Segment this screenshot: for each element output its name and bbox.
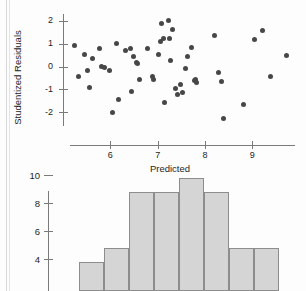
scatter-point (166, 18, 171, 23)
histogram-bar (104, 248, 129, 291)
scatter-point (189, 45, 194, 50)
scatter-point (284, 53, 289, 58)
scatter-y-tick-label: -1 (33, 85, 53, 94)
scatter-point (90, 56, 95, 61)
histogram-bar (229, 248, 254, 291)
scatter-point (72, 43, 77, 48)
scatter-point (212, 33, 217, 38)
scatter-y-tick (59, 21, 68, 22)
scatter-point (216, 70, 221, 75)
scatter-x-tick-label: 9 (242, 151, 262, 160)
scatter-point (260, 28, 265, 33)
scatter-y-tick (59, 67, 68, 68)
histogram-bar (204, 192, 229, 291)
histogram-y-tick-label: 6 (18, 227, 40, 236)
histogram-bar (254, 248, 279, 291)
histogram-y-tick (44, 259, 53, 260)
scatter-x-tick (252, 141, 253, 149)
scatter-y-axis-label: Studentized Residuals (12, 28, 23, 128)
scatter-point (252, 37, 257, 42)
scatter-point (268, 74, 273, 79)
scatter-point (241, 102, 246, 107)
scatter-point (137, 77, 142, 82)
histogram-y-tick-label: 4 (18, 255, 40, 264)
scatter-point (221, 116, 226, 121)
scatter-point (167, 36, 172, 41)
scatter-point (162, 100, 167, 105)
scatter-point (161, 36, 166, 41)
scatter-point (194, 80, 199, 85)
scatter-y-tick-label: 1 (33, 39, 53, 48)
scatter-x-tick-label: 6 (100, 151, 120, 160)
scatter-point (82, 52, 87, 57)
scatter-point (156, 52, 161, 57)
scatter-point (183, 66, 188, 71)
histogram-y-tick (44, 203, 53, 204)
scatter-y-tick-label: 0 (33, 62, 53, 71)
scatter-point (168, 58, 173, 63)
scatter-point (116, 97, 121, 102)
histogram-y-tick (44, 175, 53, 176)
scatter-y-tick (59, 112, 68, 113)
scatter-point (131, 54, 136, 59)
scatter-x-tick (110, 141, 111, 149)
scatter-point (219, 79, 224, 84)
scatter-point (114, 41, 119, 46)
histogram-bar (79, 262, 104, 291)
scatter-point (87, 85, 92, 90)
scatter-x-axis-line (70, 145, 295, 146)
scatter-point (97, 46, 102, 51)
histogram-y-axis-line (48, 191, 49, 291)
scatter-point (151, 77, 156, 82)
scatter-point (135, 61, 140, 66)
scatter-point (173, 86, 178, 91)
scatter-point (128, 46, 133, 51)
scatter-x-axis-label: Predicted (130, 163, 210, 174)
scatter-y-axis-line (63, 14, 64, 126)
scatter-point (170, 27, 175, 32)
histogram-y-tick (44, 231, 53, 232)
histogram-bar (154, 192, 179, 291)
histogram-panel: 10864 (0, 180, 306, 291)
scatter-plot-panel: 210-1-2 6789 Studentized Residuals Predi… (0, 0, 306, 180)
scatter-point (85, 68, 90, 73)
scatter-point (159, 21, 164, 26)
scatter-x-tick-label: 7 (148, 151, 168, 160)
scatter-point (76, 74, 81, 79)
histogram-y-tick-label: 10 (18, 171, 40, 180)
scatter-y-tick-label: 2 (33, 16, 53, 25)
histogram-bar (179, 178, 204, 291)
scatter-point (107, 68, 112, 73)
scatter-point (185, 54, 190, 59)
scatter-y-tick-label: -2 (33, 108, 53, 117)
scatter-point (129, 89, 134, 94)
scatter-x-tick (205, 141, 206, 149)
histogram-y-tick-label: 8 (18, 199, 40, 208)
histogram-bar (129, 192, 154, 291)
scatter-point (180, 90, 185, 95)
scatter-point (178, 82, 183, 87)
scatter-x-tick (158, 141, 159, 149)
scatter-point (145, 46, 150, 51)
scatter-x-tick-label: 8 (195, 151, 215, 160)
scatter-y-tick (59, 44, 68, 45)
scatter-y-tick (59, 89, 68, 90)
scatter-point (110, 110, 115, 115)
